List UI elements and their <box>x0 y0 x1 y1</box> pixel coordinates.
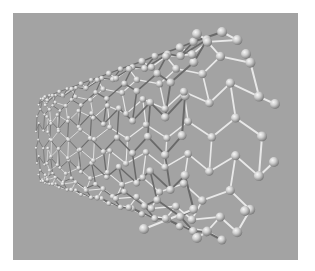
carbon-atom <box>88 176 93 181</box>
carbon-atom <box>216 52 225 61</box>
carbon-atom <box>232 227 242 237</box>
carbon-atom <box>156 80 163 87</box>
carbon-atom <box>38 155 41 158</box>
carbon-atom <box>129 118 136 125</box>
carbon-atom <box>57 129 61 133</box>
carbon-atom <box>126 66 133 73</box>
carbon-atom <box>217 236 226 245</box>
carbon-atom <box>88 136 93 141</box>
carbon-atom <box>51 104 54 107</box>
carbon-atom <box>46 178 50 182</box>
carbon-atom <box>125 136 131 142</box>
carbon-atom <box>91 158 96 163</box>
carbon-atom <box>148 64 155 71</box>
carbon-atom <box>192 29 202 39</box>
carbon-atom <box>44 173 48 177</box>
carbon-atom <box>61 182 65 186</box>
bond-lines <box>36 32 275 240</box>
carbon-atom <box>39 169 42 172</box>
carbon-atom <box>188 215 197 224</box>
carbon-atom <box>37 174 40 177</box>
carbon-atom <box>163 135 170 142</box>
carbon-nanotube-illustration <box>0 0 315 271</box>
carbon-atom <box>121 189 127 195</box>
carbon-atom <box>123 161 129 167</box>
carbon-atom <box>76 166 81 171</box>
carbon-atom <box>84 188 89 193</box>
carbon-atom <box>39 108 42 111</box>
carbon-atom <box>101 121 107 127</box>
carbon-atom <box>44 103 48 107</box>
carbon-atom <box>67 116 71 120</box>
carbon-atom <box>58 109 62 113</box>
carbon-atom <box>89 111 94 116</box>
carbon-atom <box>217 27 227 37</box>
carbon-atom <box>134 76 141 83</box>
carbon-atom <box>49 122 53 126</box>
carbon-atom <box>57 90 61 94</box>
carbon-atom <box>93 90 98 95</box>
carbon-atom <box>95 195 100 200</box>
carbon-atom <box>66 138 70 142</box>
carbon-atom <box>133 194 140 201</box>
carbon-atom <box>114 134 120 140</box>
carbon-atom <box>61 93 65 97</box>
carbon-atom <box>36 162 39 165</box>
carbon-atom <box>176 223 184 231</box>
carbon-atom <box>166 186 174 194</box>
carbon-atom <box>65 188 69 192</box>
carbon-atom <box>121 80 127 86</box>
carbon-atom <box>216 212 225 221</box>
carbon-atom <box>89 78 93 82</box>
carbon-atom <box>78 127 83 132</box>
carbon-atom <box>113 196 119 202</box>
carbon-atom <box>79 81 84 86</box>
carbon-atom <box>41 179 45 183</box>
carbon-atom <box>162 52 170 60</box>
carbon-atom <box>172 65 180 73</box>
carbon-atom <box>189 58 198 67</box>
carbon-atom <box>198 70 207 79</box>
carbon-atom <box>126 204 133 211</box>
carbon-atom <box>161 164 168 171</box>
carbon-atom <box>48 183 51 186</box>
carbon-atom <box>141 203 148 210</box>
carbon-atom <box>226 186 235 195</box>
carbon-atom <box>55 113 59 117</box>
carbon-atom <box>161 105 168 112</box>
carbon-atom <box>116 164 122 170</box>
carbon-atom <box>208 133 217 142</box>
carbon-atom <box>100 186 105 191</box>
carbon-atom <box>100 86 105 91</box>
carbon-atom <box>69 87 74 92</box>
carbon-atom <box>119 90 125 96</box>
carbon-atom <box>133 88 140 95</box>
carbon-atom <box>161 113 169 121</box>
carbon-atom <box>79 103 83 107</box>
carbon-atom <box>148 205 155 212</box>
carbon-atom <box>35 147 38 150</box>
carbon-atom <box>105 103 110 108</box>
carbon-atom <box>143 121 150 128</box>
carbon-atom <box>113 76 119 82</box>
carbon-atom <box>48 108 52 112</box>
carbon-atom <box>74 86 78 90</box>
carbon-atom <box>140 96 147 103</box>
carbon-atom <box>166 78 174 86</box>
carbon-atom <box>232 35 242 45</box>
carbon-atom <box>45 115 49 119</box>
carbon-atom <box>51 172 54 175</box>
carbon-atom <box>146 167 154 175</box>
carbon-atom <box>43 113 46 116</box>
carbon-atom <box>51 182 55 186</box>
carbon-atom <box>42 147 45 150</box>
carbon-atom <box>138 58 145 65</box>
carbon-atom <box>37 104 40 107</box>
carbon-atom <box>181 171 190 180</box>
carbon-atom <box>95 77 100 82</box>
carbon-atom <box>270 99 280 109</box>
carbon-atom <box>79 170 83 174</box>
carbon-atom <box>64 104 68 108</box>
carbon-atom <box>118 205 124 211</box>
carbon-atom <box>46 147 50 151</box>
